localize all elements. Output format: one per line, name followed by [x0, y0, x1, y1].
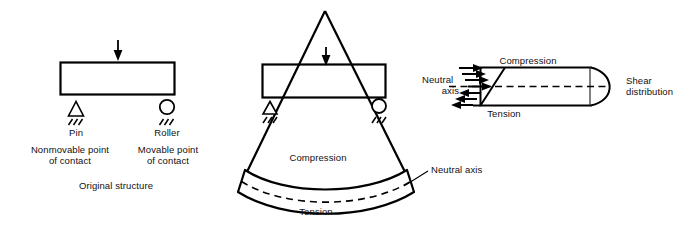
downward-load-arrow-left — [114, 40, 123, 61]
shear-distribution-label-line2: distribution — [626, 86, 673, 97]
downward-load-arrow-middle — [322, 47, 331, 66]
compression-label-stress: Compression — [499, 55, 556, 66]
roller-support-middle — [372, 99, 386, 123]
figure-linework — [0, 0, 691, 233]
neutral-axis-label-line1: Neutral — [422, 74, 453, 85]
pin-support-middle — [263, 102, 277, 124]
tension-label-middle: Tension — [299, 206, 332, 217]
pin-label: Pin — [69, 127, 83, 138]
tension-label-stress: Tension — [487, 108, 520, 119]
roller-support-left — [160, 100, 175, 125]
beam-bending-figure: Pin Roller Nonmovable point of contact M… — [0, 0, 691, 233]
shear-distribution-label-line1: Shear — [626, 75, 652, 86]
panel-stress-graphics — [449, 64, 610, 109]
panel-original-graphics — [61, 40, 175, 125]
beam-rectangle-middle — [263, 65, 386, 98]
roller-description-line2: of contact — [147, 155, 189, 166]
original-structure-caption: Original structure — [79, 180, 153, 191]
neutral-axis-label-line2: axis — [422, 85, 459, 96]
compression-label-middle: Compression — [289, 152, 346, 163]
roller-description-line1: Movable point — [138, 144, 198, 155]
panel-deflected-graphics — [238, 11, 428, 214]
beam-rectangle-left — [61, 63, 175, 95]
pin-support-left — [69, 102, 84, 126]
pin-description-line1: Nonmovable point — [31, 144, 109, 155]
neutral-axis-label-middle: Neutral axis — [431, 164, 482, 175]
pin-description-line2: of contact — [49, 155, 91, 166]
roller-label: Roller — [154, 127, 179, 138]
